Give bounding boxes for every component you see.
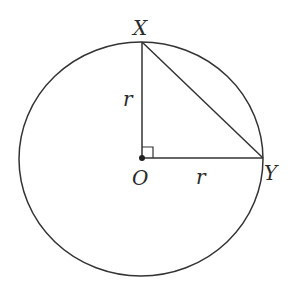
center-point [139, 155, 145, 161]
label-r-horizontal: r [196, 165, 207, 189]
label-o: O [132, 166, 148, 190]
label-x: X [131, 16, 148, 40]
chord-xy [142, 42, 263, 158]
label-r-vertical: r [123, 87, 134, 111]
circle-diagram: X O Y r r [0, 0, 298, 297]
label-y: Y [264, 161, 279, 185]
